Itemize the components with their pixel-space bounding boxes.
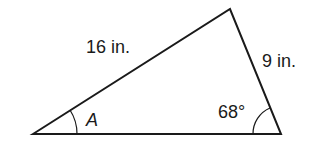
angle-label-a: A [85,110,98,130]
side-label-16: 16 in. [86,37,130,57]
triangle-diagram: 16 in. 9 in. A 68° [0,0,318,144]
angle-arc-a [70,110,77,134]
side-label-9: 9 in. [262,51,296,71]
angle-arc-68 [253,108,270,134]
angle-label-68: 68° [218,102,245,122]
triangle-svg: 16 in. 9 in. A 68° [0,0,318,144]
